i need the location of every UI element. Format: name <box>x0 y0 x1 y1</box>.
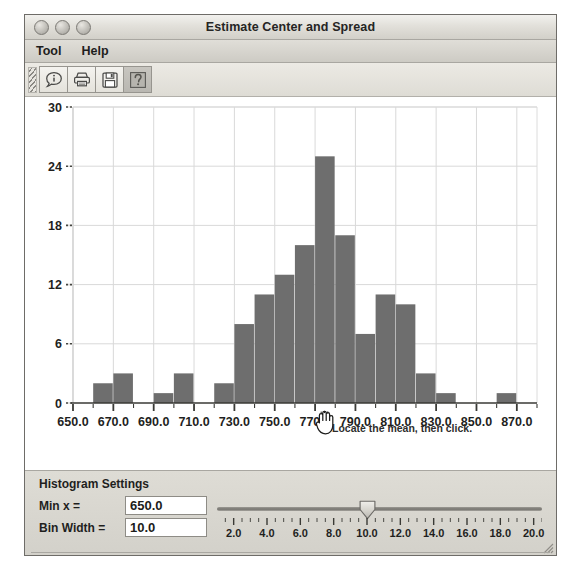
bin-width-input[interactable] <box>125 518 207 537</box>
bin-width-label: Bin Width = <box>39 521 125 535</box>
slider-tick-marks <box>217 518 542 526</box>
menu-help[interactable]: Help <box>78 43 111 59</box>
svg-text:830.0: 830.0 <box>420 415 451 429</box>
svg-text:18: 18 <box>48 219 62 233</box>
slider-label-2-0: 2.0 <box>226 527 241 539</box>
info-button[interactable] <box>39 66 68 93</box>
application-window: Estimate Center and Spread Tool Help <box>24 14 557 556</box>
svg-text:710.0: 710.0 <box>178 415 209 429</box>
histogram-settings-panel: Histogram Settings Min x = Bin Width = <box>25 470 556 555</box>
histogram-chart-area[interactable]: 0612182430650.0670.0690.0710.0730.0750.0… <box>25 97 556 470</box>
tool-bar <box>25 63 556 97</box>
slider-label-8-0: 8.0 <box>326 527 341 539</box>
print-button[interactable] <box>67 66 96 93</box>
svg-text:750.0: 750.0 <box>259 415 290 429</box>
speech-bubble-info-icon <box>44 70 64 90</box>
svg-text:850.0: 850.0 <box>461 415 492 429</box>
slider-label-16-0: 16.0 <box>456 527 477 539</box>
title-bar: Estimate Center and Spread <box>25 15 556 40</box>
svg-text:650.0: 650.0 <box>57 415 88 429</box>
bin-width-slider[interactable]: 2.04.06.08.010.012.014.016.018.020.0 <box>217 496 542 548</box>
panel-bottom-divider <box>31 552 550 553</box>
svg-text:870.0: 870.0 <box>501 415 532 429</box>
slider-label-10-0: 10.0 <box>356 527 377 539</box>
svg-text:730.0: 730.0 <box>219 415 250 429</box>
svg-text:790.0: 790.0 <box>340 415 371 429</box>
min-x-label: Min x = <box>39 499 125 513</box>
settings-fields: Min x = Bin Width = <box>39 496 207 537</box>
menu-tool[interactable]: Tool <box>33 43 64 59</box>
slider-thumb[interactable] <box>359 500 376 520</box>
slider-label-6-0: 6.0 <box>293 527 308 539</box>
floppy-disk-icon <box>100 70 120 90</box>
window-title: Estimate Center and Spread <box>25 20 556 34</box>
svg-text:810.0: 810.0 <box>380 415 411 429</box>
slider-label-4-0: 4.0 <box>259 527 274 539</box>
svg-text:24: 24 <box>48 160 62 174</box>
svg-text:770.0: 770.0 <box>299 415 330 429</box>
svg-text:0: 0 <box>55 397 62 411</box>
slider-label-12-0: 12.0 <box>390 527 411 539</box>
question-mark-icon <box>128 70 148 90</box>
slider-label-20-0: 20.0 <box>523 527 544 539</box>
svg-text:690.0: 690.0 <box>138 415 169 429</box>
min-x-input[interactable] <box>125 496 207 515</box>
bin-width-row: Bin Width = <box>39 518 207 537</box>
svg-text:12: 12 <box>48 278 62 292</box>
svg-text:6: 6 <box>55 337 62 351</box>
settings-panel-title: Histogram Settings <box>39 477 550 491</box>
printer-icon <box>72 70 92 90</box>
slider-track[interactable] <box>217 507 542 511</box>
slider-label-18-0: 18.0 <box>490 527 511 539</box>
histogram-plot[interactable]: 0612182430650.0670.0690.0710.0730.0750.0… <box>25 97 556 449</box>
menu-bar: Tool Help <box>25 40 556 63</box>
help-button[interactable] <box>123 66 152 93</box>
min-x-row: Min x = <box>39 496 207 515</box>
svg-text:30: 30 <box>48 101 62 115</box>
toolbar-drag-handle[interactable] <box>28 67 37 93</box>
slider-label-14-0: 14.0 <box>423 527 444 539</box>
svg-text:670.0: 670.0 <box>98 415 129 429</box>
slider-tick-labels: 2.04.06.08.010.012.014.016.018.020.0 <box>217 527 542 541</box>
save-button[interactable] <box>95 66 124 93</box>
